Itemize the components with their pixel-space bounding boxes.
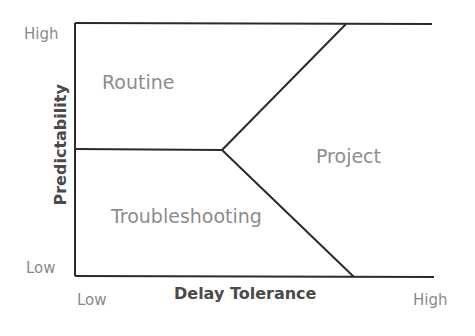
y-axis-high-label: High bbox=[24, 25, 58, 43]
x-axis-line bbox=[75, 276, 434, 277]
x-axis-high-label: High bbox=[413, 291, 447, 309]
routine-project-divider bbox=[222, 24, 346, 150]
region-project-label: Project bbox=[316, 145, 381, 167]
x-axis-title: Delay Tolerance bbox=[174, 284, 316, 303]
region-routine-label: Routine bbox=[102, 71, 174, 93]
region-troubleshooting-label: Troubleshooting bbox=[111, 205, 262, 227]
y-axis-low-label: Low bbox=[26, 259, 56, 277]
y-axis-title: Predictability bbox=[51, 86, 70, 206]
x-axis-low-label: Low bbox=[77, 291, 107, 309]
top-border-line bbox=[75, 23, 432, 24]
routine-troubleshooting-divider bbox=[75, 149, 222, 150]
